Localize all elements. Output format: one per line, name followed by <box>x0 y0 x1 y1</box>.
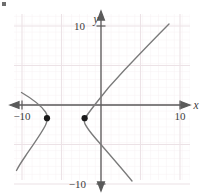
tick-label-x-neg10: −10 <box>13 110 31 122</box>
grid-minor <box>14 14 190 180</box>
x-axis-label: x <box>192 99 199 111</box>
x-axis-arrow-left <box>10 102 19 109</box>
y-axis-arrow-down <box>98 182 105 191</box>
y-axis-arrow-up <box>98 11 105 20</box>
tick-label-x-pos10: 10 <box>175 110 187 122</box>
vertex-point-left <box>44 115 50 121</box>
graph-figure: y x 10 −10 −10 10 <box>0 0 205 194</box>
tick-label-y-neg10: −10 <box>69 178 87 190</box>
corner-bullet-icon <box>2 2 6 6</box>
tick-label-y-pos10: 10 <box>74 20 86 32</box>
coordinate-plane-svg: y x 10 −10 −10 10 <box>0 0 205 194</box>
vertex-point-right <box>82 115 88 121</box>
y-axis-label: y <box>92 13 99 26</box>
